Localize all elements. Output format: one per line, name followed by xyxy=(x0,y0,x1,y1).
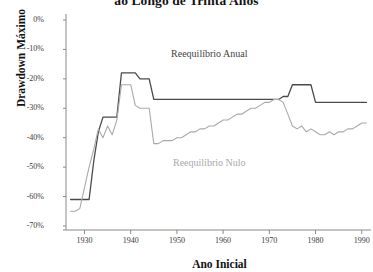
drawdown-chart: ao Longo de Trinta Anos Drawdown Máximo … xyxy=(0,0,373,272)
plot-area xyxy=(0,0,373,272)
